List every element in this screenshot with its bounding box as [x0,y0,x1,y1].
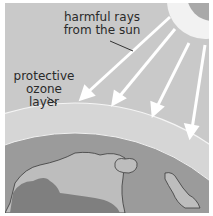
ozone-label-line2: ozone layer [11,83,77,109]
sun-icon [167,3,209,39]
rays-label: harmful rays from the sun [61,11,143,37]
rays-label-line2: from the sun [61,24,143,37]
rays-leader-line [110,41,133,51]
ozone-label: protective ozone layer [11,70,77,109]
ozone-diagram: harmful rays from the sun protective ozo… [5,3,209,213]
